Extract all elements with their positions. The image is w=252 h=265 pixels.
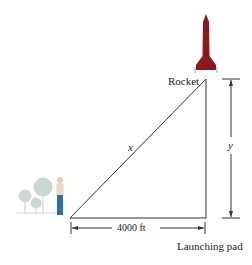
hypotenuse-label: x bbox=[128, 142, 133, 153]
rocket-icon bbox=[195, 14, 217, 73]
trees-icon bbox=[16, 178, 60, 213]
height-label: y bbox=[228, 140, 233, 151]
rocket-label: Rocket bbox=[168, 76, 199, 87]
base-label: 4000 ft bbox=[117, 223, 146, 233]
arrow-right-icon bbox=[198, 226, 204, 230]
arrow-down-icon bbox=[229, 211, 233, 217]
arrow-up-icon bbox=[229, 80, 233, 86]
hypotenuse-line bbox=[70, 79, 206, 218]
right-triangle bbox=[70, 79, 206, 218]
person-icon bbox=[57, 177, 64, 215]
arrow-left-icon bbox=[72, 226, 78, 230]
launching-pad-label: Launching pad bbox=[177, 241, 243, 252]
